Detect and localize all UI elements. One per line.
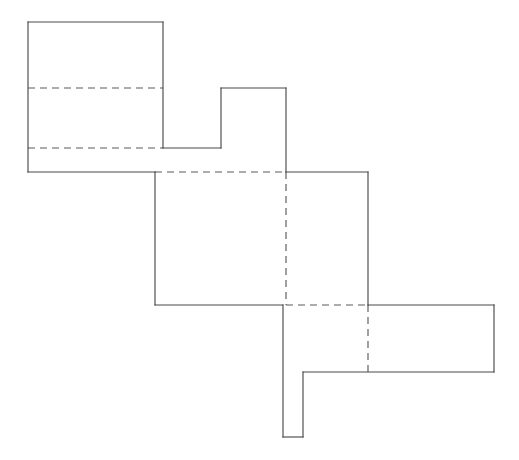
- geometric-figure-canvas: [0, 0, 519, 460]
